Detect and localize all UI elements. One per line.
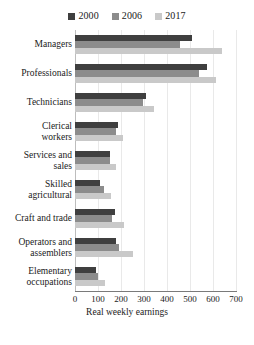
category-tick: Technicians — [0, 88, 75, 117]
category-tick: Managers — [0, 30, 75, 59]
x-axis-ticks: 0100200300400500600700 — [0, 293, 254, 307]
category-label: Craft and trade — [15, 213, 72, 224]
x-axis-title: Real weekly earnings — [0, 307, 254, 317]
legend-label: 2017 — [165, 11, 185, 21]
legend-swatch-icon — [68, 13, 75, 20]
x-tick-label: 200 — [114, 293, 128, 305]
legend-entry-2017[interactable]: 2017 — [155, 11, 185, 21]
bar-2017[interactable] — [75, 77, 216, 83]
x-tick-label: 100 — [91, 293, 105, 305]
category-label: Managers — [35, 39, 72, 50]
x-tick-label: 500 — [183, 293, 197, 305]
category-label: Clerical workers — [41, 121, 72, 142]
chart-legend: 200020062017 — [0, 11, 254, 21]
x-tick-label: 600 — [206, 293, 220, 305]
bar-group — [75, 146, 236, 175]
bar-group — [75, 204, 236, 233]
category-label: Operators and assemblers — [18, 237, 72, 258]
legend-label: 2006 — [122, 11, 142, 21]
category-tick: Services and sales — [0, 146, 75, 175]
bar-group — [75, 117, 236, 146]
bar-group — [75, 59, 236, 88]
bar-2017[interactable] — [75, 251, 133, 257]
bar-2017[interactable] — [75, 48, 222, 54]
bar-group — [75, 88, 236, 117]
bar-group — [75, 233, 236, 262]
legend-swatch-icon — [155, 13, 162, 20]
gridline — [236, 30, 237, 291]
bar-2017[interactable] — [75, 164, 116, 170]
bar-group — [75, 262, 236, 291]
plot-area — [75, 30, 236, 291]
legend-entry-2000[interactable]: 2000 — [68, 11, 98, 21]
bar-2017[interactable] — [75, 106, 154, 112]
category-label: Services and sales — [24, 150, 72, 171]
category-tick: Operators and assemblers — [0, 233, 75, 262]
category-tick: Craft and trade — [0, 204, 75, 233]
category-label: Technicians — [27, 97, 72, 108]
bar-2017[interactable] — [75, 222, 124, 228]
category-tick: Professionals — [0, 59, 75, 88]
bar-2017[interactable] — [75, 135, 123, 141]
category-tick: Skilled agricultural — [0, 175, 75, 204]
bar-chart: 200020062017 ManagersProfessionalsTechni… — [0, 0, 254, 345]
category-tick: Elementary occupations — [0, 262, 75, 291]
category-tick: Clerical workers — [0, 117, 75, 146]
legend-entry-2006[interactable]: 2006 — [112, 11, 142, 21]
x-tick-label: 300 — [137, 293, 151, 305]
category-label: Skilled agricultural — [28, 179, 72, 200]
legend-label: 2000 — [78, 11, 98, 21]
bar-group — [75, 175, 236, 204]
x-tick-label: 400 — [160, 293, 174, 305]
x-tick-label: 700 — [229, 293, 243, 305]
x-axis-line — [75, 291, 237, 292]
legend-swatch-icon — [112, 13, 119, 20]
bar-group — [75, 30, 236, 59]
category-label: Elementary occupations — [27, 266, 72, 287]
x-tick-label: 0 — [73, 293, 78, 305]
category-label: Professionals — [21, 68, 72, 79]
bars-layer — [75, 30, 236, 291]
category-axis: ManagersProfessionalsTechniciansClerical… — [0, 30, 75, 291]
bar-2017[interactable] — [75, 280, 105, 286]
plot-wrapper: ManagersProfessionalsTechniciansClerical… — [0, 30, 254, 298]
bar-2017[interactable] — [75, 193, 111, 199]
